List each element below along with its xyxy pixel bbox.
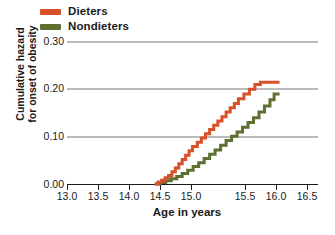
gridlines <box>67 42 318 137</box>
cumulative-hazard-chart: Dieters Nondieters Cumulative hazard for… <box>0 0 335 235</box>
plot-area <box>0 0 335 235</box>
x-axis-ticks <box>68 185 308 191</box>
series-line-dieters <box>155 82 280 184</box>
